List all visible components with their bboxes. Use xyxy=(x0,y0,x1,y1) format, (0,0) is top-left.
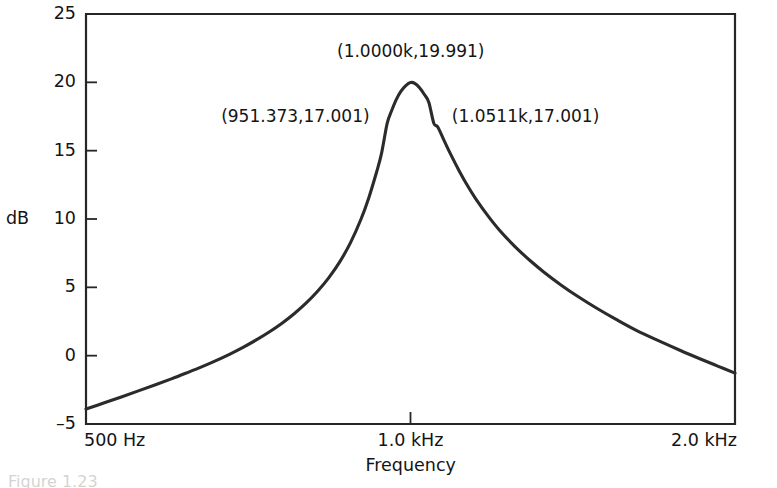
figure-container: 2520151050–5 500 Hz1.0 kHz2.0 kHz dB Fre… xyxy=(0,0,777,488)
x-tick-label: 500 Hz xyxy=(84,432,145,450)
x-tick-label: 1.0 kHz xyxy=(378,432,444,450)
x-tick-label: 2.0 kHz xyxy=(671,432,737,450)
y-tick-label: 15 xyxy=(24,142,76,160)
y-tick-label: 20 xyxy=(24,73,76,91)
y-tick-label: 25 xyxy=(24,5,76,23)
annotation-label: (1.0511k,17.001) xyxy=(452,108,599,125)
annotation-label: (1.0000k,19.991) xyxy=(337,43,484,60)
y-tick-label: 5 xyxy=(24,278,76,296)
chart-plot-area xyxy=(0,0,777,488)
y-axis-ticks xyxy=(86,82,97,355)
y-axis-title: dB xyxy=(6,210,29,228)
response-curve xyxy=(86,82,735,409)
y-tick-label: 10 xyxy=(24,210,76,228)
x-axis-title: Frequency xyxy=(366,457,456,475)
y-tick-label: 0 xyxy=(24,347,76,365)
plot-frame xyxy=(86,14,735,424)
annotation-label: (951.373,17.001) xyxy=(221,108,369,125)
figure-caption: Figure 1.23 xyxy=(8,474,238,488)
y-tick-label: –5 xyxy=(24,415,76,433)
